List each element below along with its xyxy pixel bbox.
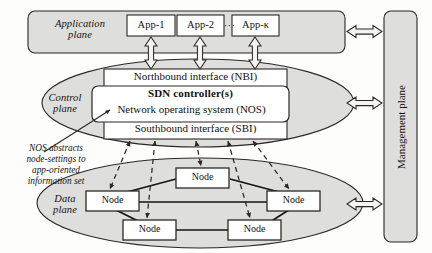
management-plane-label: Management plane — [395, 85, 407, 169]
application-management-arrow — [347, 26, 382, 38]
node-label-top: Node — [176, 172, 229, 183]
nos-annotation: NOS abstracts node-settings to app-orien… — [4, 143, 108, 187]
application-plane-label: Application plane — [36, 18, 124, 41]
sdn-architecture-figure: Application plane App-1 App-2 ··· App-κ … — [0, 0, 432, 253]
data-plane-label: Data plane — [40, 193, 90, 216]
node-label-bottom-left: Node — [123, 224, 176, 235]
app-label-2: App-2 — [177, 19, 224, 30]
node-label-right: Node — [267, 195, 320, 206]
control-plane-label: Control plane — [34, 92, 96, 115]
southbound-interface-label: Southbound interface (SBI) — [104, 123, 287, 135]
app-label-1: App-1 — [127, 19, 175, 30]
nos-label: Network operating system (NOS) — [96, 104, 287, 116]
app-label-k: App-κ — [232, 19, 279, 30]
node-label-bottom-right: Node — [228, 224, 281, 235]
management-plane-label-wrap: Management plane — [384, 11, 417, 242]
northbound-interface-label: Northbound interface (NBI) — [104, 71, 287, 83]
management-link-arrows — [347, 26, 382, 211]
node-label-left: Node — [86, 195, 139, 206]
sdn-controller-title: SDN controller(s) — [92, 88, 289, 100]
